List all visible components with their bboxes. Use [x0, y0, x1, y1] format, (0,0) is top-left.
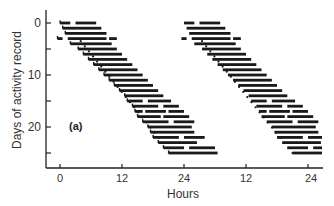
activity-bar [251, 100, 267, 103]
activity-bar [181, 37, 186, 40]
activity-bar [274, 131, 318, 134]
activity-bar [272, 100, 295, 103]
activity-bar [60, 22, 70, 25]
activity-bar [267, 120, 293, 123]
activity-bar [83, 53, 122, 56]
activity-bars [57, 20, 322, 154]
activity-bar [132, 105, 158, 108]
onset-mark [108, 78, 109, 81]
activity-bar [287, 146, 308, 149]
activity-bar [212, 58, 251, 61]
activity-bar [243, 89, 282, 92]
activity-bar [148, 100, 171, 103]
onset-mark [93, 62, 94, 65]
activity-bar [223, 68, 262, 71]
y-tick-label-0: 0 [34, 16, 41, 30]
activity-bar [169, 110, 185, 113]
activity-bar [282, 141, 321, 144]
y-ticks [46, 23, 51, 153]
activity-bar [114, 84, 153, 87]
onset-mark [132, 104, 133, 107]
activity-bar [143, 120, 169, 123]
activity-bar [150, 131, 194, 134]
activity-bar [78, 48, 117, 51]
activity-bar [68, 37, 107, 40]
onset-mark [124, 93, 125, 96]
activity-bar [298, 120, 319, 123]
onset-mark [83, 52, 84, 55]
activity-bar [293, 152, 323, 155]
x-tick-label-12: 12 [116, 172, 128, 184]
activity-bar [256, 105, 282, 108]
onset-mark [163, 145, 164, 148]
onset-mark [119, 88, 120, 91]
activity-bar [127, 100, 142, 103]
onset-mark [103, 72, 104, 75]
onset-dot [209, 50, 211, 52]
onset-dot [205, 45, 207, 47]
activity-bar [135, 110, 143, 113]
activity-bar [148, 126, 192, 129]
onset-mark [168, 150, 169, 153]
activity-bar [88, 58, 127, 61]
activity-bar [259, 110, 267, 113]
activity-bar [262, 115, 285, 118]
y-tick-label-20: 20 [28, 120, 42, 134]
onset-mark [57, 36, 58, 39]
onset-dot [84, 45, 86, 47]
activity-bar [207, 53, 246, 56]
onset-mark [127, 98, 128, 101]
activity-bar [138, 115, 161, 118]
activity-bar [189, 32, 230, 35]
activity-bar [65, 32, 106, 35]
activity-bar [184, 136, 205, 139]
activity-bar [308, 136, 322, 139]
y-axis-title: Days of activity record [10, 31, 24, 149]
activity-bar [163, 146, 184, 149]
activity-bar [174, 120, 195, 123]
x-tick-label-0: 0 [57, 172, 63, 184]
activity-bar [269, 110, 290, 113]
onset-mark [152, 135, 153, 138]
onset-dot [254, 106, 256, 108]
activity-bar [163, 105, 179, 108]
activity-bar [145, 110, 166, 113]
activity-bar [249, 94, 288, 97]
onset-dot [92, 55, 94, 57]
onset-dot [246, 96, 248, 98]
onset-dot [213, 55, 215, 57]
activity-bar [287, 105, 303, 108]
onset-mark [65, 31, 66, 34]
onset-mark [59, 20, 60, 23]
activity-bar [76, 22, 97, 25]
activity-bar [184, 22, 194, 25]
onset-dot [88, 50, 90, 52]
onset-mark [147, 124, 148, 127]
onset-dot [201, 40, 203, 42]
activity-bar [189, 146, 215, 149]
activity-bar [109, 79, 148, 82]
activity-bar [287, 115, 313, 118]
activity-bar [125, 94, 164, 97]
onset-mark [142, 119, 143, 122]
onset-mark [134, 109, 135, 112]
activity-bar [313, 146, 322, 149]
onset-mark [77, 46, 78, 49]
activity-bar [63, 27, 102, 30]
y-tick-label-10: 10 [28, 68, 42, 82]
panel-label: (a) [69, 120, 83, 132]
activity-bar [163, 115, 189, 118]
activity-bar [153, 136, 179, 139]
activity-bar [94, 63, 133, 66]
activity-bar [238, 84, 277, 87]
activity-bar [202, 48, 241, 51]
x-tick-label-36: 12 [240, 172, 252, 184]
activity-bar [293, 110, 309, 113]
activity-bar [187, 27, 226, 30]
activity-bar [272, 126, 316, 129]
activity-bar [277, 136, 303, 139]
activity-bar [218, 63, 257, 66]
x-tick-label-24: 24 [178, 172, 190, 184]
activity-bar [70, 42, 111, 45]
activity-bar [233, 37, 241, 40]
